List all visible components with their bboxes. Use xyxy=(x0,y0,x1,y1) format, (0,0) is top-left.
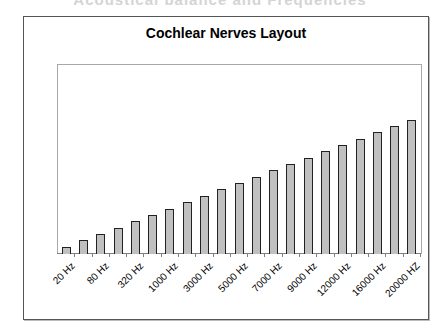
bar xyxy=(356,139,365,254)
bar xyxy=(286,164,295,254)
x-tick xyxy=(213,254,214,257)
x-tick xyxy=(126,254,127,257)
bar xyxy=(373,132,382,254)
chart-title: Cochlear Nerves Layout xyxy=(23,25,429,41)
x-tick xyxy=(247,254,248,257)
bar xyxy=(183,202,192,254)
x-tick xyxy=(143,254,144,257)
bar xyxy=(114,228,123,254)
bar xyxy=(338,145,347,254)
x-tick xyxy=(161,254,162,257)
bar xyxy=(269,170,278,254)
bar xyxy=(96,234,105,254)
x-tick xyxy=(282,254,283,257)
x-tick xyxy=(264,254,265,257)
x-tick xyxy=(74,254,75,257)
x-tick xyxy=(178,254,179,257)
x-tick xyxy=(195,254,196,257)
x-tick xyxy=(385,254,386,257)
x-tick xyxy=(316,254,317,257)
bar xyxy=(235,183,244,254)
x-tick xyxy=(334,254,335,257)
x-tick xyxy=(230,254,231,257)
x-tick xyxy=(109,254,110,257)
bar xyxy=(304,158,313,254)
bar xyxy=(148,215,157,254)
x-tick xyxy=(299,254,300,257)
bar xyxy=(407,120,416,254)
bar xyxy=(217,189,226,254)
bar xyxy=(131,221,140,254)
x-tick xyxy=(368,254,369,257)
bar xyxy=(165,209,174,254)
x-tick xyxy=(403,254,404,257)
bar xyxy=(62,247,71,254)
bar xyxy=(321,151,330,254)
bar xyxy=(252,177,261,254)
x-tick xyxy=(351,254,352,257)
x-tick xyxy=(420,254,421,257)
bar xyxy=(79,240,88,254)
x-tick xyxy=(92,254,93,257)
bar xyxy=(200,196,209,254)
clipped-page-heading: Acoustical balance and Frequencies xyxy=(40,0,400,8)
bar xyxy=(390,126,399,254)
